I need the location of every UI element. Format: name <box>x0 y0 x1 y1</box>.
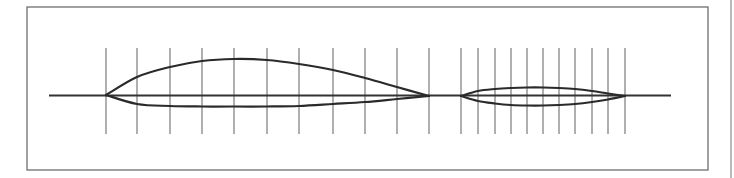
diagram-frame <box>27 7 708 170</box>
station-lines <box>106 48 625 134</box>
airfoil-diagram <box>0 0 734 178</box>
